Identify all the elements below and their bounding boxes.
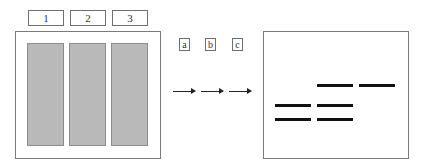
band-lane3-top — [359, 84, 395, 87]
step-label-c: c — [235, 39, 239, 50]
lane-label-1: 1 — [28, 10, 64, 26]
arrow-right-icon — [229, 91, 251, 92]
step-box-a: a — [179, 38, 190, 51]
lane-label-2-text: 2 — [85, 12, 91, 24]
band-lane2-bottom — [317, 118, 353, 121]
lane-label-3: 3 — [112, 10, 148, 26]
right-result-frame — [263, 31, 409, 159]
band-lane1-middle — [275, 104, 311, 107]
step-label-b: b — [208, 39, 213, 50]
step-label-a: a — [182, 39, 186, 50]
step-box-b: b — [205, 38, 216, 51]
band-lane1-bottom — [275, 118, 311, 121]
band-lane2-top — [317, 84, 353, 87]
gel-lane-3 — [111, 43, 148, 146]
arrow-right-icon — [173, 91, 195, 92]
lane-label-1-text: 1 — [43, 12, 49, 24]
gel-lane-2 — [69, 43, 106, 146]
lane-label-2: 2 — [70, 10, 106, 26]
step-box-c: c — [232, 38, 243, 51]
gel-lane-1 — [27, 43, 64, 146]
arrow-right-icon — [201, 91, 223, 92]
band-lane2-middle — [317, 104, 353, 107]
lane-label-3-text: 3 — [127, 12, 133, 24]
